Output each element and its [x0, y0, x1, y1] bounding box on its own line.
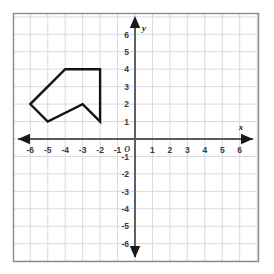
origin-label: O [124, 145, 130, 154]
x-tick-label: -2 [96, 145, 104, 155]
plot-background [0, 0, 274, 274]
x-tick-label: -6 [27, 145, 35, 155]
x-tick-label: 6 [237, 145, 242, 155]
x-tick-label: -5 [44, 145, 52, 155]
y-tick-label: 3 [124, 82, 129, 92]
y-tick-label: -5 [121, 221, 129, 231]
x-tick-label: 1 [150, 145, 155, 155]
y-tick-label: 4 [124, 64, 129, 74]
y-tick-label: -2 [121, 169, 129, 179]
y-tick-label: -4 [121, 204, 129, 214]
x-tick-label: 5 [220, 145, 225, 155]
x-tick-label: -3 [79, 145, 87, 155]
x-tick-label: -4 [61, 145, 69, 155]
y-tick-label: 2 [124, 99, 129, 109]
x-tick-label: 4 [202, 145, 207, 155]
coordinate-plot: -6-5-4-3-2-1123456654321-1-2-3-4-5-6 xyO [0, 0, 274, 274]
y-tick-label: 6 [124, 30, 129, 40]
y-tick-label: -6 [121, 239, 129, 249]
coordinate-plane-figure: -6-5-4-3-2-1123456654321-1-2-3-4-5-6 xyO [0, 0, 274, 274]
x-tick-label: -1 [114, 145, 122, 155]
x-tick-label: 3 [185, 145, 190, 155]
y-tick-label: 1 [124, 117, 129, 127]
x-axis-label: x [238, 122, 244, 132]
y-tick-label: 5 [124, 47, 129, 57]
y-tick-label: -3 [121, 187, 129, 197]
x-tick-label: 2 [168, 145, 173, 155]
